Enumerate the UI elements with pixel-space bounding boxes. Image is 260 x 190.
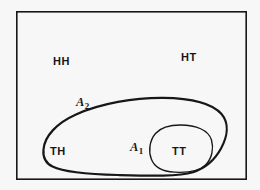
outcome-label-ht: HT — [181, 52, 197, 63]
event-label-a1-base: A — [130, 140, 138, 154]
outcome-label-hh: HH — [53, 56, 70, 67]
diagram-canvas — [0, 0, 260, 190]
event-label-a1: A1 — [130, 141, 143, 156]
outcome-label-tt: TT — [172, 146, 187, 157]
event-label-a2: A2 — [76, 96, 89, 111]
event-a2-boundary — [43, 98, 226, 176]
euler-diagram-figure: HH HT TH TT A2 A1 — [0, 0, 260, 190]
event-label-a1-subscript: 1 — [139, 146, 144, 156]
event-label-a2-base: A — [76, 95, 84, 109]
outcome-label-th: TH — [50, 146, 66, 157]
event-label-a2-subscript: 2 — [85, 101, 90, 111]
